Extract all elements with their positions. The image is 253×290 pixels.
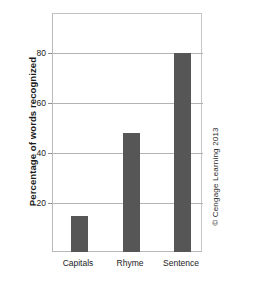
copyright-notice: © Cengage Learning 2013 <box>211 112 220 242</box>
y-tick-label-80: 80 <box>22 49 46 58</box>
y-tick-label-20: 20 <box>22 199 46 208</box>
y-tick-60: 60 <box>18 99 46 108</box>
bar-sentence <box>174 53 191 252</box>
bar-capitals <box>71 216 88 253</box>
y-tick-label-40: 40 <box>22 149 46 158</box>
x-category-label-capitals: Capitals <box>63 258 94 268</box>
y-tick-20: 20 <box>18 199 46 208</box>
x-category-label-rhyme: Rhyme <box>117 258 144 268</box>
plot-area <box>52 13 202 252</box>
y-tick-40: 40 <box>18 149 46 158</box>
bar-rhyme <box>123 133 140 252</box>
y-tick-label-60: 60 <box>22 99 46 108</box>
bar-chart-figure: Percentage of words recognized 80 60 40 … <box>0 0 253 290</box>
x-category-label-sentence: Sentence <box>163 258 199 268</box>
y-tick-80: 80 <box>18 49 46 58</box>
